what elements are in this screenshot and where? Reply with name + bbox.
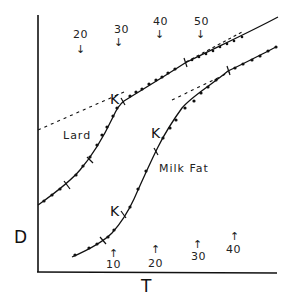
arrow-up-icon: ↑ (151, 243, 161, 256)
bottom-temperature-marks: ↑ 10 ↑ 20 ↑ 30 ↑ 40 (106, 230, 241, 271)
arrow-down-icon: ↓ (155, 28, 165, 41)
top-mark-20: 20 (73, 28, 88, 41)
arrow-down-icon: ↓ (114, 36, 124, 49)
lard-extrapolation-upper (186, 32, 242, 62)
arrow-up-icon: ↑ (230, 230, 240, 243)
milk-fat-label: Milk Fat (159, 162, 209, 175)
milk-fat-curve (72, 47, 276, 257)
lard-break-point-k: K (110, 91, 120, 107)
x-axis-label: T (140, 276, 152, 296)
bottom-mark-20: 20 (148, 257, 163, 270)
dilatometry-diagram: D T (0, 0, 291, 307)
lard-curve (38, 17, 278, 205)
arrow-down-icon: ↓ (76, 43, 86, 56)
bottom-mark-40: 40 (226, 243, 241, 256)
milk-fat-lower-break-point-k: K (110, 203, 120, 219)
top-mark-30: 30 (114, 23, 129, 36)
y-axis-label: D (14, 227, 27, 247)
lard-label: Lard (63, 129, 91, 142)
top-mark-50: 50 (194, 15, 209, 28)
milk-fat-break-point-k: K (151, 125, 161, 141)
top-temperature-marks: 20 ↓ 30 ↓ 40 ↓ 50 ↓ (73, 15, 209, 56)
milk-fat-cross-marks (100, 66, 230, 244)
x-axis (37, 272, 277, 273)
top-mark-40: 40 (153, 15, 168, 28)
bottom-mark-10: 10 (106, 258, 121, 271)
arrow-down-icon: ↓ (196, 28, 206, 41)
milk-fat-data-points (73, 45, 277, 256)
bottom-mark-30: 30 (191, 250, 206, 263)
